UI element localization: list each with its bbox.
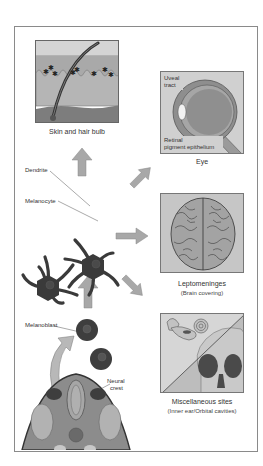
neural-crest-label-line2: crest: [110, 385, 123, 392]
neural-crest-label-line1: Neural: [107, 378, 125, 385]
melanocyte-label: Melanocyte: [25, 198, 56, 205]
dendrite-label: Dendrite: [25, 167, 48, 174]
melanoblast-label: Melanoblast: [25, 322, 57, 329]
